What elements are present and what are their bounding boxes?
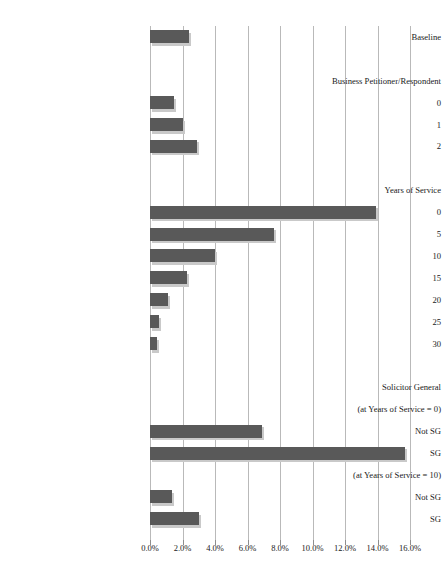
y-axis-category-label: 20 [296,295,444,305]
y-axis-category-label: 2 [296,141,444,151]
bar [150,96,174,109]
y-axis-category-label: 25 [296,317,444,327]
y-axis-category-label: SG [296,514,444,524]
y-axis-category-label: 15 [296,273,444,283]
bar [150,118,183,131]
bar [150,425,262,438]
gridline-8.0% [280,26,281,540]
gridline-4.0% [215,26,216,540]
bar [150,140,197,153]
category-group-label: Solicitor General [296,382,444,392]
y-axis-category-label: Not SG [296,492,444,502]
bar [150,228,274,241]
bar [150,206,376,219]
x-tick-label: 16.0% [390,543,430,553]
bar [150,447,405,460]
y-axis-category-label: Not SG [296,426,444,436]
bar [150,337,157,350]
category-group-label: Years of Service [296,185,444,195]
bar [150,249,215,262]
bar [150,490,172,503]
category-group-label: (at Years of Service = 10) [296,470,444,480]
y-axis-category-label: 10 [296,251,444,261]
category-group-label: (at Years of Service = 0) [296,404,444,414]
y-axis-category-label: 30 [296,339,444,349]
bar [150,315,159,328]
bar [150,293,168,306]
gridline-6.0% [248,26,249,540]
bar [150,512,199,525]
bar [150,271,187,284]
y-axis-category-label: 0 [296,98,444,108]
y-axis-category-label: Baseline [296,32,444,42]
bar [150,30,189,43]
y-axis-category-label: 5 [296,229,444,239]
y-axis-category-label: 1 [296,120,444,130]
bar-chart: 0.0%2.0%4.0%6.0%8.0%10.0%12.0%14.0%16.0%… [0,0,444,572]
category-group-label: Business Petitioner/Respondent [296,76,444,86]
